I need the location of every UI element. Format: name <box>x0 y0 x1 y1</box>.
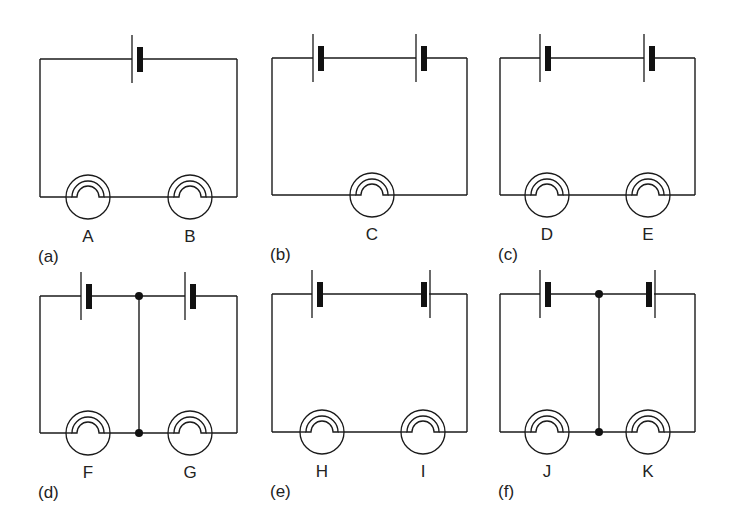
circuit-b: C(b) <box>270 34 467 264</box>
lamp-j-icon <box>525 410 569 454</box>
circuit-caption: (d) <box>38 483 59 502</box>
lamp-i-icon <box>401 410 445 454</box>
cell-battery-icon <box>132 35 143 83</box>
circuit-caption: (e) <box>270 482 291 501</box>
junction-dot-icon <box>135 292 143 300</box>
lamp-a-icon <box>66 175 110 219</box>
junction-dot-icon <box>595 290 603 298</box>
lamp-label: J <box>543 462 552 481</box>
cell-battery-icon <box>312 270 323 318</box>
circuit-caption: (b) <box>270 245 291 264</box>
cell-battery-icon <box>540 34 551 82</box>
cell-battery-icon <box>540 270 551 318</box>
lamp-label: H <box>316 462 328 481</box>
cell-battery-icon <box>646 270 655 318</box>
lamp-b-icon <box>168 175 212 219</box>
cell-battery-icon <box>81 272 92 320</box>
lamp-d-icon <box>525 173 569 217</box>
lamp-label: G <box>183 463 196 482</box>
lamp-label: F <box>83 463 93 482</box>
circuit-caption: (a) <box>38 247 59 266</box>
circuit-diagrams-figure: AB(a)C(b)DE(c)FG(d)HI(e)JK(f) <box>0 0 736 522</box>
lamp-label: K <box>642 462 654 481</box>
lamp-g-icon <box>168 411 212 455</box>
lamp-label: E <box>642 225 653 244</box>
junction-dot-icon <box>595 428 603 436</box>
lamp-label: C <box>366 225 378 244</box>
lamp-label: B <box>184 227 195 246</box>
circuit-e: HI(e) <box>270 270 467 501</box>
lamp-label: D <box>541 225 553 244</box>
cell-battery-icon <box>416 34 427 82</box>
lamp-label: A <box>82 227 94 246</box>
circuit-d: FG(d) <box>38 272 237 502</box>
lamp-label: I <box>421 462 426 481</box>
lamp-e-icon <box>626 173 670 217</box>
circuit-c: DE(c) <box>498 34 695 264</box>
junction-dot-icon <box>135 429 143 437</box>
cell-battery-icon <box>421 270 430 318</box>
lamp-h-icon <box>300 410 344 454</box>
lamp-c-icon <box>350 173 394 217</box>
cell-battery-icon <box>644 34 655 82</box>
cell-battery-icon <box>185 272 196 320</box>
lamp-k-icon <box>626 410 670 454</box>
circuit-f: JK(f) <box>498 270 695 501</box>
lamp-f-icon <box>66 411 110 455</box>
circuit-caption: (f) <box>498 482 514 501</box>
circuit-caption: (c) <box>498 245 518 264</box>
circuit-a: AB(a) <box>38 35 237 266</box>
cell-battery-icon <box>313 34 324 82</box>
